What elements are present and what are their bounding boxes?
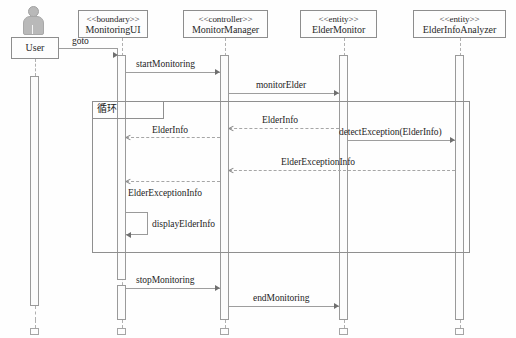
message-arrowhead-endmonitoring bbox=[334, 303, 339, 309]
lifeline-foot-tail-eldermonitor bbox=[344, 320, 345, 328]
lifeline-foot-monitoringui bbox=[117, 328, 126, 335]
message-arrowhead-goto bbox=[113, 52, 118, 58]
message-label-elderexceptioninfo-2: ElderExceptionInfo bbox=[128, 188, 202, 199]
message-line-startmonitoring bbox=[126, 72, 220, 73]
lifeline-foot-tail-elderinfoanalyzer bbox=[460, 320, 461, 328]
lifeline-foot-elderinfoanalyzer bbox=[455, 328, 464, 335]
lifeline-foot-tail-monitormanager bbox=[225, 320, 226, 328]
lifeline-user-upper bbox=[35, 59, 36, 76]
activation-monitoringui-stop[interactable] bbox=[117, 285, 126, 320]
message-arrowhead-detectexception bbox=[450, 137, 455, 143]
message-label-goto: goto bbox=[72, 36, 89, 47]
message-line-endmonitoring bbox=[229, 306, 339, 307]
message-label-elderexceptioninfo-1: ElderExceptionInfo bbox=[281, 157, 355, 168]
message-arrowhead-monitorelder bbox=[334, 90, 339, 96]
message-label-startmonitoring: startMonitoring bbox=[136, 59, 195, 70]
lifeline-user-lower bbox=[35, 306, 36, 320]
message-label-detectexception: detectException(ElderInfo) bbox=[339, 127, 442, 138]
message-line-elderexceptioninfo-1 bbox=[229, 170, 455, 171]
message-label-elderinfo-1: ElderInfo bbox=[262, 115, 298, 126]
actor-body-icon bbox=[23, 16, 44, 35]
message-arrowhead-startmonitoring bbox=[215, 69, 220, 75]
actor-leg-split-icon bbox=[32, 25, 33, 34]
message-line-elderinfo-1 bbox=[229, 128, 339, 129]
participant-stereotype-eldermonitor: <<entity>> bbox=[301, 14, 376, 24]
message-label-endmonitoring: endMonitoring bbox=[253, 293, 309, 304]
lifeline-foot-monitormanager bbox=[220, 328, 229, 335]
message-label-monitorelder: monitorElder bbox=[256, 80, 306, 91]
actor-box-user[interactable]: User bbox=[11, 37, 59, 59]
message-line-elderinfo-2 bbox=[126, 137, 220, 138]
lifeline-foot-tail-user bbox=[35, 320, 36, 328]
message-line-goto bbox=[59, 48, 117, 49]
lifeline-foot-tail-monitoringui bbox=[122, 320, 123, 328]
message-line-monitorelder bbox=[229, 93, 339, 94]
participant-box-monitoringui[interactable]: <<boundary>> MonitoringUI bbox=[78, 10, 148, 38]
participant-name-monitoringui: MonitoringUI bbox=[79, 24, 147, 35]
participant-box-elderinfoanalyzer[interactable]: <<entity>> ElderInfoAnalyzer bbox=[413, 10, 506, 38]
activation-user[interactable] bbox=[30, 76, 39, 306]
participant-name-elderinfoanalyzer: ElderInfoAnalyzer bbox=[414, 24, 505, 35]
message-label-elderinfo-2: ElderInfo bbox=[152, 125, 188, 136]
combined-fragment-loop-label: 循环 bbox=[97, 103, 117, 115]
message-arrowhead-displayelderinfo bbox=[126, 232, 131, 238]
message-line-detectexception bbox=[348, 140, 455, 141]
participant-box-eldermonitor[interactable]: <<entity>> ElderMonitor bbox=[300, 10, 377, 38]
participant-box-monitormanager[interactable]: <<controller>> MonitorManager bbox=[183, 10, 268, 38]
lifeline-foot-eldermonitor bbox=[339, 328, 348, 335]
message-label-displayelderinfo: displayElderInfo bbox=[152, 219, 215, 230]
participant-name-monitormanager: MonitorManager bbox=[184, 24, 267, 35]
actor-person-icon bbox=[21, 6, 44, 34]
participant-stereotype-monitormanager: <<controller>> bbox=[184, 14, 267, 24]
sequence-diagram-canvas: User <<boundary>> MonitoringUI <<control… bbox=[0, 0, 516, 338]
message-arrowhead-stopmonitoring bbox=[215, 285, 220, 291]
lifeline-foot-user bbox=[30, 328, 39, 335]
message-label-stopmonitoring: stopMonitoring bbox=[136, 275, 194, 286]
participant-stereotype-elderinfoanalyzer: <<entity>> bbox=[414, 14, 505, 24]
participant-name-eldermonitor: ElderMonitor bbox=[301, 24, 376, 35]
participant-stereotype-monitoringui: <<boundary>> bbox=[79, 14, 147, 24]
message-line-elderexceptioninfo-2 bbox=[126, 181, 220, 182]
message-line-stopmonitoring bbox=[126, 288, 220, 289]
